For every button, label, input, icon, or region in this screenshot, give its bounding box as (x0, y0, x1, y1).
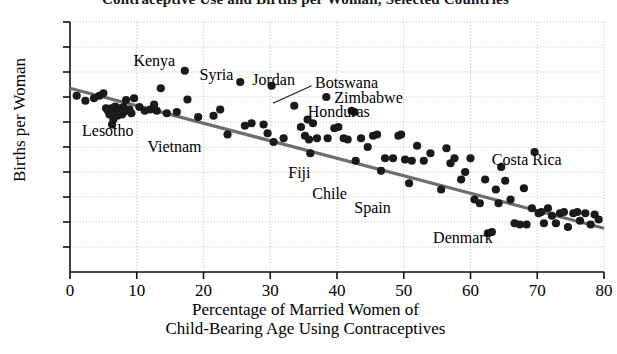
x-tick-label: 80 (581, 282, 617, 299)
x-tick-label: 20 (181, 282, 227, 299)
data-point (426, 149, 434, 157)
x-tick-label: 60 (448, 282, 494, 299)
data-point (324, 134, 332, 142)
annotation-honduras: Honduras (308, 104, 370, 120)
data-point (442, 144, 450, 152)
data-point (377, 167, 385, 175)
x-tick-label: 70 (514, 282, 560, 299)
annotation-fiji: Fiji (288, 165, 310, 181)
data-point (163, 109, 171, 117)
data-point (153, 107, 161, 115)
data-point (581, 209, 589, 217)
data-point (127, 109, 135, 117)
data-point (381, 154, 389, 162)
data-point (437, 185, 445, 193)
data-point (420, 157, 428, 165)
data-point (181, 67, 189, 75)
x-tick-label: 40 (314, 282, 360, 299)
data-point (157, 84, 165, 92)
data-point (334, 123, 342, 131)
x-axis-title-line1: Percentage of Married Women of (0, 300, 611, 319)
annotation-spain: Spain (354, 200, 390, 216)
data-point (357, 134, 365, 142)
x-axis-title-line2: Child-Bearing Age Using Contraceptives (0, 319, 611, 338)
x-tick-label: 50 (381, 282, 427, 299)
data-point (540, 219, 548, 227)
data-point (173, 108, 181, 116)
data-point (492, 185, 500, 193)
data-point (352, 157, 360, 165)
data-point (564, 223, 572, 231)
annotation-costa-rica: Costa Rica (492, 152, 562, 168)
data-point (587, 220, 595, 228)
x-axis-title: Percentage of Married Women of Child-Bea… (0, 300, 611, 338)
annotation-syria: Syria (199, 67, 233, 83)
data-point (322, 93, 330, 101)
annotation-denmark: Denmark (433, 230, 493, 246)
leader-lines (273, 86, 312, 104)
data-point (223, 130, 231, 138)
data-point (548, 212, 556, 220)
data-point (576, 217, 584, 225)
data-point (461, 168, 469, 176)
chart-title: Contraceptive Use and Births per Woman, … (0, 0, 611, 8)
annotation-botswana: Botswana (315, 75, 378, 91)
data-point (269, 138, 277, 146)
data-point (73, 92, 81, 100)
x-tick-label: 30 (247, 282, 293, 299)
data-point (595, 215, 603, 223)
data-point (209, 112, 217, 120)
data-point (466, 154, 474, 162)
data-point (263, 129, 271, 137)
data-point (405, 179, 413, 187)
data-point (364, 143, 372, 151)
data-point (309, 119, 317, 127)
annotation-lesotho: Lesotho (82, 123, 134, 139)
data-point (183, 95, 191, 103)
data-point (297, 123, 305, 131)
data-point (450, 154, 458, 162)
data-point (501, 177, 509, 185)
data-point (344, 135, 352, 143)
annotation-chile: Chile (312, 186, 347, 202)
data-point (413, 142, 421, 150)
annotation-jordan: Jordan (252, 72, 295, 88)
data-point (528, 204, 536, 212)
data-point (305, 135, 313, 143)
data-point (247, 119, 255, 127)
data-point (506, 195, 514, 203)
annotation-vietnam: Vietnam (147, 139, 201, 155)
botswana-leader (273, 86, 312, 104)
data-point (457, 175, 465, 183)
data-point (306, 149, 314, 157)
data-point (560, 208, 568, 216)
y-axis-title: Births per Woman (10, 0, 30, 245)
data-point (290, 102, 298, 110)
data-point (476, 199, 484, 207)
x-tick-label: 0 (47, 282, 93, 299)
data-point (397, 130, 405, 138)
annotation-kenya: Kenya (133, 53, 175, 69)
data-point (313, 134, 321, 142)
data-point (520, 184, 528, 192)
data-point (408, 157, 416, 165)
data-point (280, 134, 288, 142)
data-point (259, 120, 267, 128)
data-point (522, 220, 530, 228)
data-point (389, 154, 397, 162)
data-point (481, 175, 489, 183)
data-point (552, 219, 560, 227)
plot-area: 12345678910 01020304050607080 KenyaSyria… (70, 22, 604, 272)
data-point (373, 130, 381, 138)
data-point (122, 96, 130, 104)
data-point (81, 97, 89, 105)
data-point (494, 199, 502, 207)
x-tick-label: 10 (114, 282, 160, 299)
data-point (236, 78, 244, 86)
data-point (573, 208, 581, 216)
data-point (544, 204, 552, 212)
data-point (99, 89, 107, 97)
data-point (216, 105, 224, 113)
data-point (130, 94, 138, 102)
